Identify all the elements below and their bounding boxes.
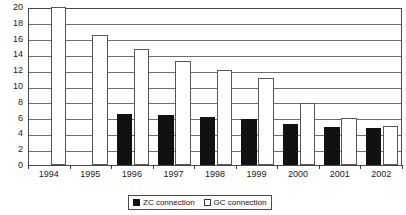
bar-gc-1996: [134, 49, 150, 165]
legend-entry-zc: ZC connection: [133, 198, 195, 207]
x-tick-label-1995: 1995: [70, 169, 112, 180]
bar-zc-2000: [283, 124, 299, 165]
gridline: [29, 40, 401, 41]
bar-gc-2002: [383, 126, 399, 166]
bar-gc-1994: [51, 7, 67, 165]
y-tick-label: 20: [13, 3, 23, 12]
x-tick-label-1996: 1996: [111, 169, 153, 180]
y-tick-label: 12: [13, 66, 23, 75]
bar-zc-1996: [117, 114, 133, 165]
gridline: [29, 72, 401, 73]
bar-gc-2001: [341, 118, 357, 165]
x-tick-label-2002: 2002: [360, 169, 402, 180]
y-tick-label: 18: [13, 19, 23, 28]
x-tick-label-1999: 1999: [236, 169, 278, 180]
legend-label: ZC connection: [143, 198, 195, 207]
y-tick-label: 8: [18, 98, 23, 107]
y-tick-label: 0: [18, 161, 23, 170]
y-tick-label: 14: [13, 50, 23, 59]
x-tick-label-1997: 1997: [153, 169, 195, 180]
bar-gc-1999: [258, 78, 274, 165]
gridline: [29, 103, 401, 104]
gridline: [29, 24, 401, 25]
bar-zc-1999: [241, 119, 257, 165]
bar-gc-1997: [175, 61, 191, 165]
legend-label: GC connection: [214, 198, 267, 207]
y-axis: 02468101214161820: [0, 0, 26, 174]
gridline: [29, 88, 401, 89]
bar-zc-1997: [158, 115, 174, 165]
y-tick-label: 16: [13, 35, 23, 44]
y-tick-label: 10: [13, 82, 23, 91]
bar-gc-2000: [300, 103, 316, 165]
legend-entry-gc: GC connection: [204, 198, 267, 207]
bar-gc-1995: [92, 35, 108, 165]
x-tick-label-2001: 2001: [319, 169, 361, 180]
bar-gc-1998: [217, 70, 233, 165]
x-tick-label-2000: 2000: [277, 169, 319, 180]
y-tick-label: 4: [18, 129, 23, 138]
zc-swatch-icon: [133, 199, 140, 206]
gridline: [29, 56, 401, 57]
bar-zc-2002: [366, 128, 382, 165]
bar-zc-1998: [200, 117, 216, 165]
y-tick-label: 6: [18, 114, 23, 123]
chart-legend: ZC connectionGC connection: [128, 195, 272, 210]
x-tick-mark: [402, 165, 403, 169]
y-tick-label: 2: [18, 145, 23, 154]
x-tick-label-1994: 1994: [28, 169, 70, 180]
bar-chart: 02468101214161820 1994199519961997199819…: [0, 0, 406, 215]
bar-zc-2001: [324, 127, 340, 165]
plot-area: [28, 8, 402, 166]
x-axis: 199419951996199719981999200020012002: [28, 169, 402, 185]
x-tick-label-1998: 1998: [194, 169, 236, 180]
gc-swatch-icon: [204, 199, 211, 206]
